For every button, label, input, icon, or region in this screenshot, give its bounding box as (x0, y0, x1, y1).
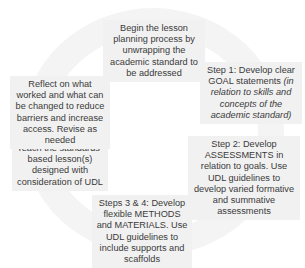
node-teach-text: Teach the standards-based lesson(s) desi… (17, 143, 103, 187)
node-step34-methods: Steps 3 & 4: Develop flexible METHODS an… (92, 195, 192, 268)
node-reflect: Reflect on what worked and what can be c… (10, 76, 110, 149)
node-reflect-text: Reflect on what worked and what can be c… (16, 79, 105, 145)
node-step1-goals: Step 1: Develop clear GOAL statements (i… (200, 62, 302, 124)
node-step34-text: Steps 3 & 4: Develop flexible METHODS an… (97, 198, 188, 264)
node-begin-text: Begin the lesson planning process by unw… (110, 23, 198, 78)
node-begin: Begin the lesson planning process by unw… (103, 20, 205, 82)
node-step1-text: Step 1: Develop clear GOAL statements (207, 65, 295, 86)
node-step2-assessments: Step 2: Develop ASSESSMENTS in relation … (188, 136, 300, 220)
node-step2-text: Step 2: Develop ASSESSMENTS in relation … (194, 139, 294, 216)
